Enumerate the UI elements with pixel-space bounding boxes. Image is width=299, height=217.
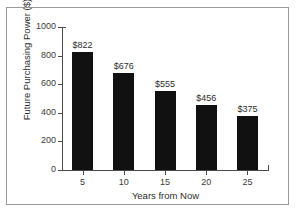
bar-value-label: $456	[196, 93, 216, 103]
bar	[196, 105, 217, 170]
y-tick-label: 400	[41, 108, 56, 117]
bar	[72, 52, 93, 170]
y-tick-label: 200	[41, 136, 56, 145]
y-tick-label: 0	[51, 165, 56, 174]
x-axis-right-cap	[268, 165, 269, 171]
x-tick-label: 20	[201, 177, 211, 187]
bar-value-label: $676	[114, 61, 134, 71]
x-tick-mark	[206, 171, 207, 175]
bar-value-label: $822	[73, 40, 93, 50]
bar	[155, 91, 176, 170]
y-tick-label: 1000	[36, 22, 56, 31]
x-tick-mark	[83, 171, 84, 175]
y-tick-label: 600	[41, 79, 56, 88]
y-axis-tick-labels: 02004006008001000	[22, 0, 56, 217]
y-tick-label: 800	[41, 51, 56, 60]
x-axis-title: Years from Now	[62, 190, 269, 201]
x-tick-mark	[124, 171, 125, 175]
bar	[237, 116, 258, 170]
y-tick-mark	[58, 170, 62, 171]
x-tick-mark	[247, 171, 248, 175]
bar	[113, 73, 134, 170]
plot-area	[62, 27, 268, 170]
x-tick-label: 10	[119, 177, 129, 187]
x-tick-mark	[165, 171, 166, 175]
bar-value-label: $555	[155, 79, 175, 89]
x-tick-label: 5	[80, 177, 85, 187]
chart-page: Future Purchasing Power ($) 020040060080…	[0, 0, 299, 217]
bar-value-label: $375	[237, 104, 257, 114]
x-tick-label: 25	[242, 177, 252, 187]
x-tick-label: 15	[160, 177, 170, 187]
